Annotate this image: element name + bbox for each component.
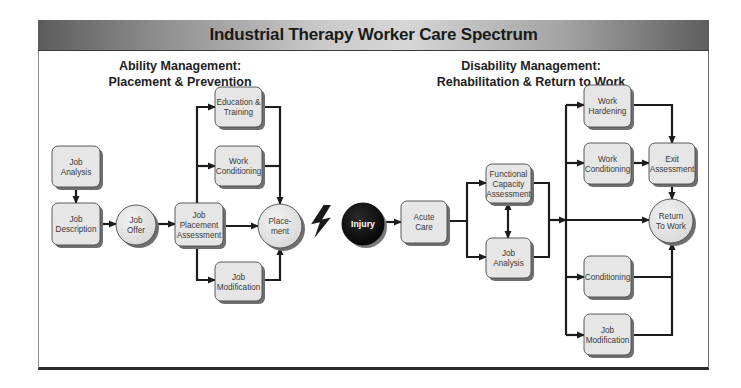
node-box xyxy=(486,238,531,278)
node-label: Work xyxy=(598,155,618,164)
node-label: Work xyxy=(598,97,618,106)
node-label: Job xyxy=(69,158,83,167)
node-acute-care: AcuteCare xyxy=(401,201,450,246)
node-work-conditioning-right: WorkConditioning xyxy=(584,143,634,187)
connector-job-modification-right-to-return-to-work xyxy=(631,277,672,335)
flow-diagram: JobAnalysisJobDescriptionJobOfferJobPlac… xyxy=(0,0,741,388)
connector-work-hardening-to-exit-assessment xyxy=(631,105,672,143)
node-label: Conditioning xyxy=(216,167,262,176)
node-label: ment xyxy=(271,227,290,236)
node-label: Job xyxy=(502,249,516,258)
connector-job-placement-assessment-to-job-modification-left xyxy=(197,246,215,280)
node-label: Capacity xyxy=(493,180,526,189)
node-box xyxy=(215,146,262,186)
node-injury: Injury xyxy=(342,203,387,248)
node-box xyxy=(215,87,262,127)
node-job-description: JobDescription xyxy=(52,203,103,248)
node-label: Job xyxy=(192,211,206,220)
node-label: Job xyxy=(129,216,143,225)
lightning-bolt-shape xyxy=(311,205,331,238)
node-label: Job xyxy=(601,326,615,335)
node-label: To Work xyxy=(656,222,687,231)
node-label: Job xyxy=(69,215,83,224)
node-label: Offer xyxy=(127,226,145,235)
node-box xyxy=(215,262,262,301)
node-job-analysis-right: JobAnalysis xyxy=(486,238,534,281)
node-box xyxy=(52,146,100,187)
node-circle xyxy=(116,205,156,245)
node-circle xyxy=(649,199,693,243)
node-label: Exit xyxy=(665,155,679,164)
node-return-to-work: ReturnTo Work xyxy=(649,199,696,246)
node-box xyxy=(649,143,695,184)
node-functional-capacity-assessment: FunctionalCapacityAssessment xyxy=(486,164,534,206)
node-label: Care xyxy=(415,223,433,232)
node-label: Description xyxy=(56,225,97,234)
node-label: Modification xyxy=(586,336,630,345)
lightning-bolt-icon xyxy=(311,205,331,238)
node-conditioning: Conditioning xyxy=(584,256,634,300)
connector-acute-care-to-job-analysis-right xyxy=(467,221,486,257)
node-layer: JobAnalysisJobDescriptionJobOfferJobPlac… xyxy=(52,85,698,358)
node-label: Hardening xyxy=(589,107,627,116)
node-job-placement-assessment: JobPlacementAssessment xyxy=(175,203,226,249)
diagram-canvas: Industrial Therapy Worker Care Spectrum … xyxy=(0,0,741,388)
node-work-conditioning-left: WorkConditioning xyxy=(215,146,265,189)
node-label: Functional xyxy=(490,170,528,179)
node-circle xyxy=(258,204,302,248)
node-label: Assessment xyxy=(486,190,531,199)
node-label: Analysis xyxy=(493,259,524,268)
node-label: Place- xyxy=(268,217,291,226)
node-label: Education & xyxy=(216,98,261,107)
node-label: Conditioning xyxy=(585,273,631,282)
node-label: Assessment xyxy=(177,231,222,240)
node-label: Return xyxy=(659,212,684,221)
node-placement: Place-ment xyxy=(258,204,305,251)
node-work-hardening: WorkHardening xyxy=(584,85,634,130)
node-label: Job xyxy=(232,273,246,282)
node-label: Conditioning xyxy=(585,165,631,174)
connector-job-placement-assessment-to-education-training xyxy=(197,107,215,203)
node-label: Work xyxy=(229,157,249,166)
node-job-modification-right: JobModification xyxy=(584,314,634,358)
node-label: Injury xyxy=(351,219,375,229)
connector-conditioning-to-return-to-work xyxy=(631,243,672,277)
node-box xyxy=(584,143,631,184)
node-label: Assessment xyxy=(650,165,695,174)
connector-acute-care-to-functional-capacity-assessment xyxy=(447,183,486,221)
node-box xyxy=(584,314,631,355)
node-box xyxy=(584,85,631,127)
node-box xyxy=(401,201,447,243)
node-label: Analysis xyxy=(61,168,92,177)
node-job-modification-left: JobModification xyxy=(215,262,265,304)
node-exit-assessment: ExitAssessment xyxy=(649,143,698,187)
node-label: Placement xyxy=(180,221,219,230)
node-job-offer: JobOffer xyxy=(116,205,159,248)
node-box xyxy=(52,203,100,245)
node-label: Modification xyxy=(217,283,261,292)
node-label: Training xyxy=(224,108,254,117)
node-label: Acute xyxy=(414,213,435,222)
node-education-training: Education &Training xyxy=(215,87,265,130)
node-job-analysis-left: JobAnalysis xyxy=(52,146,103,190)
